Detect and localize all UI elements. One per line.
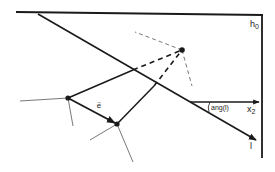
edge-b-downleft [90, 124, 117, 140]
ray-from-b-solid [117, 86, 154, 124]
label-h0-sub: 0 [255, 23, 259, 30]
thin-dashed-left [135, 32, 182, 50]
label-x2: x2 [247, 105, 255, 115]
angle-arc [208, 102, 210, 112]
ray-from-a-solid [68, 70, 133, 98]
node-a [65, 95, 70, 100]
label-h0: h0 [250, 20, 259, 30]
label-l-text: l [250, 141, 252, 151]
edge-b-down [117, 124, 133, 162]
edge-a-left [20, 98, 68, 101]
diagram-canvas [0, 0, 275, 172]
focal-point [179, 47, 185, 53]
label-vector-e: → e [95, 99, 103, 110]
vector-e [68, 98, 115, 123]
thin-dashed-down [182, 50, 192, 86]
top-boundary-line [16, 12, 263, 15]
node-b [114, 121, 119, 126]
label-l: l [250, 142, 252, 151]
label-angle-text: ang(l) [211, 104, 229, 111]
ray-from-a-dashed [133, 50, 182, 70]
label-angle: ang(l) [211, 104, 229, 111]
edge-a-down [68, 98, 73, 126]
line-l [38, 14, 256, 140]
label-x2-sub: 2 [252, 108, 256, 115]
